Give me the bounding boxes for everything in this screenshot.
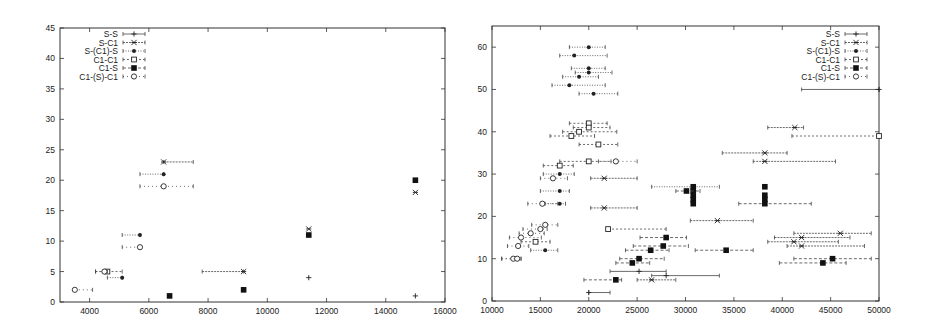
legend-marker xyxy=(854,49,858,53)
y-tick-label: 15 xyxy=(46,206,56,216)
series-s-c1 xyxy=(161,159,418,274)
data-point xyxy=(413,190,418,195)
x-tick-label: 8000 xyxy=(199,306,218,316)
series-s-c1-s xyxy=(531,45,720,252)
data-point xyxy=(167,293,173,299)
data-point xyxy=(664,273,669,278)
data-point xyxy=(138,233,142,237)
y-tick-label: 0 xyxy=(482,296,487,306)
data-point xyxy=(830,256,836,262)
x-tick-label: 16000 xyxy=(433,306,457,316)
y-tick-label: 10 xyxy=(478,254,488,264)
y-tick-label: 40 xyxy=(46,53,56,63)
legend-marker xyxy=(132,57,137,62)
data-point xyxy=(799,243,804,248)
x-tick-label: 25000 xyxy=(625,305,649,315)
data-point xyxy=(762,150,767,155)
data-point xyxy=(137,245,142,250)
data-point xyxy=(587,71,591,75)
data-point xyxy=(820,260,826,266)
data-point xyxy=(592,92,596,96)
legend-marker xyxy=(131,74,136,79)
x-tick-label: 50000 xyxy=(867,305,891,315)
data-point xyxy=(613,277,619,283)
x-tick-label: 15000 xyxy=(529,305,553,315)
data-point xyxy=(636,256,642,262)
y-tick-label: 35 xyxy=(46,84,56,94)
data-point xyxy=(528,231,533,236)
series-s-c1-s xyxy=(107,172,165,280)
legend-label: C1-(S)-C1 xyxy=(801,72,840,82)
y-tick-label: 45 xyxy=(46,23,56,33)
data-point xyxy=(543,248,547,252)
legend-item: C1-(S)-C1 xyxy=(79,72,145,82)
x-tick-label: 12000 xyxy=(315,306,339,316)
data-point xyxy=(558,202,562,206)
y-tick-label: 10 xyxy=(46,236,56,246)
series-c1-s-c1 xyxy=(72,184,193,293)
data-point xyxy=(602,205,607,210)
data-point xyxy=(791,239,796,244)
data-point xyxy=(306,232,312,238)
x-tick-label: 20000 xyxy=(577,305,601,315)
data-point xyxy=(762,184,768,190)
legend-label: C1-(S)-C1 xyxy=(79,72,118,82)
data-point xyxy=(306,226,311,231)
series-c1-c1 xyxy=(521,121,881,244)
data-point xyxy=(557,163,562,168)
data-point xyxy=(877,134,882,139)
data-point xyxy=(540,201,545,206)
data-point xyxy=(762,201,768,207)
chart-figure: 4000600080001000012000140001600005101520… xyxy=(0,0,930,329)
data-point xyxy=(723,247,729,253)
legend-marker xyxy=(132,49,136,53)
series-c1-s-c1 xyxy=(502,159,637,262)
data-point xyxy=(613,159,618,164)
data-point xyxy=(515,256,520,261)
legend-marker xyxy=(853,40,858,45)
data-point xyxy=(413,293,418,298)
data-point xyxy=(567,83,571,87)
y-tick-label: 20 xyxy=(46,175,56,185)
legend: S-SS-C1S-(C1)-SC1-C1C1-SC1-(S)-C1 xyxy=(79,29,145,82)
x-tick-label: 10000 xyxy=(480,305,504,315)
data-point xyxy=(587,66,591,70)
legend-marker xyxy=(853,65,859,71)
data-point xyxy=(533,239,538,244)
y-axis: 0102030405060 xyxy=(478,42,879,306)
data-point xyxy=(660,243,666,249)
y-tick-label: 20 xyxy=(478,211,488,221)
data-point xyxy=(572,54,576,58)
series-c1-s xyxy=(167,177,418,298)
data-point xyxy=(799,235,804,240)
data-point xyxy=(715,218,720,223)
data-point xyxy=(649,277,654,282)
x-tick-label: 45000 xyxy=(819,305,843,315)
x-axis: 40006000800010000120001400016000 xyxy=(80,28,457,316)
data-point xyxy=(518,235,523,240)
data-point xyxy=(543,222,548,227)
x-tick-label: 4000 xyxy=(80,306,99,316)
y-tick-label: 50 xyxy=(478,84,488,94)
data-point xyxy=(629,260,635,266)
data-point xyxy=(596,142,601,147)
data-point xyxy=(241,287,247,293)
data-point xyxy=(413,177,419,183)
data-point xyxy=(306,275,311,280)
chart-right: 1000015000200002500030000350004000045000… xyxy=(478,26,892,315)
data-point xyxy=(538,226,543,231)
data-point xyxy=(72,287,77,292)
data-point xyxy=(162,172,166,176)
data-point xyxy=(586,159,591,164)
data-point xyxy=(586,125,591,130)
x-tick-label: 6000 xyxy=(139,306,158,316)
y-tick-label: 25 xyxy=(46,145,56,155)
data-point xyxy=(586,290,591,295)
legend-marker xyxy=(854,57,859,62)
data-point xyxy=(876,87,881,92)
y-tick-label: 5 xyxy=(50,267,55,277)
data-point xyxy=(569,134,574,139)
legend-marker xyxy=(131,65,137,71)
y-tick-label: 40 xyxy=(478,127,488,137)
y-tick-label: 0 xyxy=(50,297,55,307)
